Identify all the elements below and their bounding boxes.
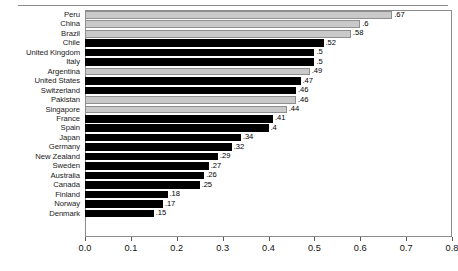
bar-value-label: .52 [326,38,336,47]
bar-row: .25 [85,180,452,189]
category-label: Denmark [0,209,83,218]
bar-value-label: .41 [275,113,285,122]
bar [85,191,168,199]
bar-value-label: .6 [362,19,368,28]
x-axis-tick-label: 0.5 [308,242,321,255]
bar-row: .6 [85,19,452,28]
bar-value-label: .26 [206,170,216,179]
category-label: Chile [0,38,83,47]
bar-row: .32 [85,142,452,151]
bar [85,181,200,189]
bar [85,162,209,170]
category-label: Italy [0,57,83,66]
bar-row: .52 [85,38,452,47]
bar-value-label: .5 [316,57,322,66]
bar-row: .26 [85,171,452,180]
bar-value-label: .49 [312,66,322,75]
x-axis-tick-label: 0.7 [400,242,413,255]
bar-value-label: .29 [220,151,230,160]
bar-rows: .67.6.58.52.5.5.49.47.46.46.44.41.4.34.3… [85,10,452,237]
category-label: Sweden [0,161,83,170]
bar [85,134,241,142]
bar-value-label: .47 [303,76,313,85]
bar-value-label: .15 [156,208,166,217]
bar-value-label: .34 [243,132,253,141]
bar [85,115,273,123]
category-label: Pakistan [0,95,83,104]
category-label: Australia [0,171,83,180]
bar-row: .49 [85,67,452,76]
category-label: Peru [0,10,83,19]
category-label: Singapore [0,105,83,114]
category-label: Canada [0,180,83,189]
bar [85,143,232,151]
category-label: Brazil [0,29,83,38]
bar-row: .46 [85,95,452,104]
category-label: Norway [0,199,83,208]
bar-value-label: .32 [234,142,244,151]
bar-row: .41 [85,114,452,123]
x-axis-tick-label: 0.1 [124,242,137,255]
bar-row: .34 [85,133,452,142]
x-axis-tick [177,237,178,241]
bar-row: .44 [85,105,452,114]
bar-value-label: .17 [165,199,175,208]
bar-row: .18 [85,190,452,199]
bar [85,96,296,104]
bar [85,39,324,47]
x-axis-tick [269,237,270,241]
x-axis-tick-labels: 0.00.10.20.30.40.50.60.70.8 [85,242,452,256]
bar [85,153,218,161]
category-label: Argentina [0,67,83,76]
x-axis-tick-label: 0.2 [170,242,183,255]
category-label: Japan [0,133,83,142]
category-axis-labels: PeruChinaBrazilChileUnited KingdomItalyA… [0,10,83,237]
x-axis-tick [406,237,407,241]
bar [85,210,154,218]
x-axis-tick [85,237,86,241]
category-label: Spain [0,123,83,132]
x-axis-tick-label: 0.3 [216,242,229,255]
bar-row: .17 [85,199,452,208]
bar [85,106,287,114]
bar [85,11,392,19]
bar [85,30,351,38]
bar-value-label: .25 [202,180,212,189]
x-axis-tick [223,237,224,241]
bar-row: .67 [85,10,452,19]
bar-value-label: .27 [211,161,221,170]
x-axis-tick-label: 0.8 [446,242,458,255]
category-label: United Kingdom [0,48,83,57]
bar-row: .5 [85,57,452,66]
bar-value-label: .46 [298,85,308,94]
bar-value-label: .67 [394,10,404,19]
bar-row: .4 [85,123,452,132]
bar [85,20,360,28]
x-axis-tick [314,237,315,241]
bar-row: .58 [85,29,452,38]
bar [85,124,269,132]
category-label: Switzerland [0,86,83,95]
x-axis-tick-label: 0.6 [354,242,367,255]
bar [85,87,296,95]
bar-row: .15 [85,209,452,218]
x-axis-tick [360,237,361,241]
bar [85,49,314,57]
bar [85,68,310,76]
bar [85,77,301,85]
bar-row: .29 [85,152,452,161]
plot-area: .67.6.58.52.5.5.49.47.46.46.44.41.4.34.3… [85,10,452,237]
bar-value-label: .4 [271,123,277,132]
bar-row: .46 [85,86,452,95]
x-axis-tick-label: 0.0 [79,242,92,255]
category-label: France [0,114,83,123]
x-axis-tick [452,237,453,241]
category-label: United States [0,76,83,85]
category-label: New Zealand [0,152,83,161]
category-label: Finland [0,190,83,199]
bar-value-label: .46 [298,95,308,104]
bar-value-label: .58 [353,28,363,37]
x-axis-tick [131,237,132,241]
bar [85,172,204,180]
